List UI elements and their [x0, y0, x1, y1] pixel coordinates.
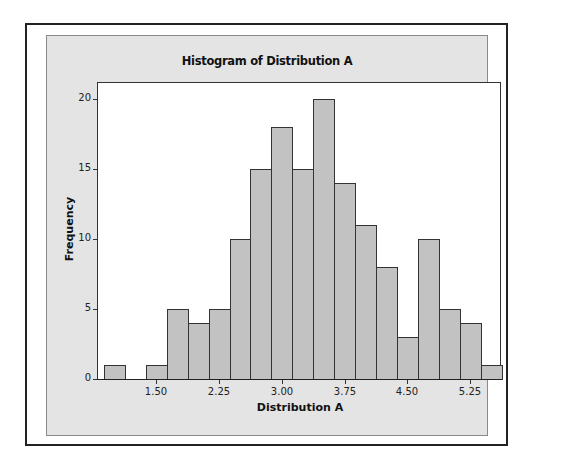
histogram-bar — [104, 365, 126, 380]
histogram-bar — [460, 323, 482, 380]
chart-title: Histogram of Distribution A — [46, 54, 488, 68]
x-tick-label: 3.75 — [325, 386, 365, 397]
histogram-bar — [418, 239, 440, 380]
histogram-bar — [397, 337, 419, 380]
histogram-bar — [250, 169, 272, 380]
x-tick-label: 1.50 — [136, 386, 176, 397]
x-tick-label: 4.50 — [387, 386, 427, 397]
x-tick-mark — [282, 380, 283, 384]
x-tick-mark — [156, 380, 157, 384]
y-axis-title: Frequency — [63, 189, 76, 269]
y-tick-label: 0 — [61, 372, 91, 383]
histogram-bar — [334, 183, 356, 380]
x-tick-mark — [345, 380, 346, 384]
histogram-bar — [439, 309, 461, 380]
histogram-bar — [271, 127, 293, 380]
y-tick-label: 15 — [61, 162, 91, 173]
histogram-bar — [481, 365, 503, 380]
histogram-bar — [188, 323, 210, 380]
histogram-bar — [292, 169, 314, 380]
x-tick-mark — [407, 380, 408, 384]
histogram-bar — [167, 309, 189, 380]
y-tick-mark — [93, 239, 97, 240]
x-tick-label: 2.25 — [199, 386, 239, 397]
x-tick-mark — [219, 380, 220, 384]
y-tick-mark — [93, 99, 97, 100]
histogram-bar — [313, 99, 335, 380]
x-tick-label: 3.00 — [262, 386, 302, 397]
histogram-bar — [230, 239, 252, 380]
histogram-bar — [376, 267, 398, 380]
y-tick-label: 5 — [61, 302, 91, 313]
histogram-bar — [146, 365, 168, 380]
x-tick-mark — [470, 380, 471, 384]
histogram-bar — [355, 225, 377, 380]
histogram-bar — [209, 309, 231, 380]
y-tick-mark — [93, 309, 97, 310]
x-tick-label: 5.25 — [450, 386, 490, 397]
y-tick-mark — [93, 169, 97, 170]
y-tick-mark — [93, 379, 97, 380]
y-tick-label: 20 — [61, 92, 91, 103]
x-axis-title: Distribution A — [200, 401, 400, 414]
